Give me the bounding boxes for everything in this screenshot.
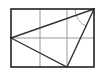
geometry-diagram — [0, 0, 99, 74]
